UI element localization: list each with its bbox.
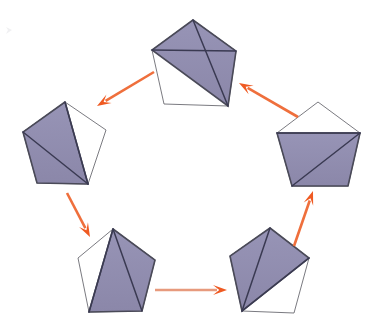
pentagon-top-diagonal-2 xyxy=(152,50,236,51)
figure-root xyxy=(0,0,380,332)
pentagon-cycle-diagram xyxy=(0,0,380,332)
